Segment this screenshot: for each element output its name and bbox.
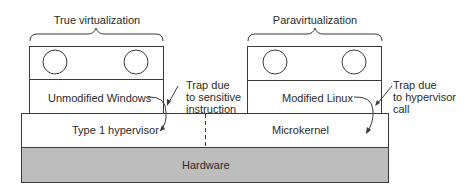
note-line: Trap due	[186, 79, 241, 91]
left-brace	[30, 28, 163, 41]
note-line: Trap due	[393, 79, 456, 91]
true-virtualization-title: True virtualization	[30, 14, 164, 26]
right-trap-note: Trap due to hypervisor call	[393, 79, 456, 115]
note-line: call	[393, 103, 456, 115]
microkernel-label: Microkernel	[272, 124, 329, 136]
unmodified-windows-label: Unmodified Windows	[48, 92, 151, 104]
hardware-label: Hardware	[182, 159, 230, 171]
modified-linux-label: Modified Linux	[282, 92, 353, 104]
right-brace	[248, 28, 382, 41]
paravirtualization-title: Paravirtualization	[248, 14, 382, 26]
type1-hypervisor-label: Type 1 hypervisor	[72, 124, 159, 136]
note-line: to hypervisor	[393, 91, 456, 103]
left-trap-note: Trap due to sensitive instruction	[186, 79, 241, 115]
note-line: instruction	[186, 103, 241, 115]
note-line: to sensitive	[186, 91, 241, 103]
